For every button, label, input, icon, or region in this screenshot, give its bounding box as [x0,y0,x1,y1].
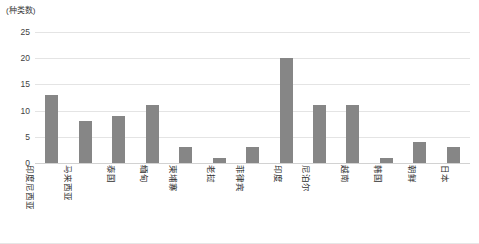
x-axis-label-slot: 老挝 [202,165,235,227]
bar [79,121,92,163]
bar-slot [403,32,436,163]
x-axis-tick-label: 菲律宾 [235,165,244,192]
plot-area: 2520151050 [35,32,470,163]
bar-slot [437,32,470,163]
x-axis-label-slot: 菲律宾 [236,165,269,227]
x-axis-label-slot: 印度 [269,165,302,227]
bar [246,147,259,163]
bar-slot [169,32,202,163]
bar-slot [303,32,336,163]
bar [45,95,58,163]
bar [112,116,125,163]
bar-slot [370,32,403,163]
x-axis-tick-label: 老挝 [206,165,215,183]
bar-slot [102,32,135,163]
bar-series [35,32,470,163]
x-axis-label-slot: 缅甸 [135,165,168,227]
bar [447,147,460,163]
x-axis-tick-label: 越南 [339,165,348,183]
x-axis-tick-label: 日本 [440,165,449,183]
x-axis-label-slot: 韩国 [370,165,403,227]
bar [413,142,426,163]
x-axis-label-slot: 泰国 [102,165,135,227]
bar-slot [236,32,269,163]
x-axis-tick-label: 朝鲜 [406,165,415,183]
x-axis-tick-label: 印度尼西亚 [25,165,34,210]
bar-slot [35,32,68,163]
x-axis-tick-label: 韩国 [373,165,382,183]
x-axis-label-slot: 柬埔寨 [169,165,202,227]
x-axis-label-slot: 日本 [437,165,470,227]
x-axis-tick-label: 马来西亚 [63,165,72,201]
bar [380,158,393,163]
bar [179,147,192,163]
x-axis-labels: 印度尼西亚马来西亚泰国缅甸柬埔寨老挝菲律宾印度尼泊尔越南韩国朝鲜日本 [35,165,470,227]
y-axis-tick-label: 10 [21,106,30,116]
y-axis-tick-label: 20 [21,53,30,63]
y-axis-unit-caption: (种类数) [6,4,35,15]
bar [146,105,159,163]
x-axis-tick-label: 尼泊尔 [301,165,310,192]
bar-chart: (种类数) 2520151050 印度尼西亚马来西亚泰国缅甸柬埔寨老挝菲律宾印度… [0,0,479,244]
bar-slot [336,32,369,163]
bar [213,158,226,163]
y-axis-tick-label: 5 [25,132,30,142]
bar-slot [68,32,101,163]
gridline: 0 [35,163,470,164]
bar [346,105,359,163]
bar [313,105,326,163]
bar-slot [269,32,302,163]
x-axis-tick-label: 柬埔寨 [168,165,177,192]
y-axis-tick-label: 25 [21,27,30,37]
x-axis-label-slot: 尼泊尔 [303,165,336,227]
x-axis-label-slot: 越南 [336,165,369,227]
x-axis-label-slot: 马来西亚 [68,165,101,227]
y-axis-tick-label: 15 [21,79,30,89]
x-axis-tick-label: 缅甸 [139,165,148,183]
x-axis-label-slot: 朝鲜 [403,165,436,227]
x-axis-tick-label: 泰国 [105,165,114,183]
bar [280,58,293,163]
bar-slot [202,32,235,163]
bar-slot [135,32,168,163]
x-axis-tick-label: 印度 [273,165,282,183]
